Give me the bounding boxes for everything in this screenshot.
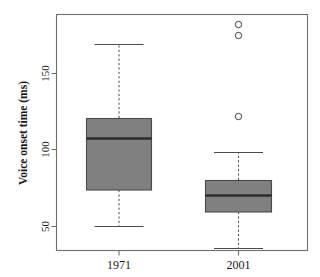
y-tick-label-150: 150 bbox=[39, 65, 51, 82]
boxplot-figure: 150 100 50 Voice onset time (ms) 1971 20… bbox=[0, 0, 320, 277]
y-tick-label-100: 100 bbox=[39, 141, 51, 158]
y-axis-title: Voice onset time (ms) bbox=[17, 81, 30, 185]
box-body-1971 bbox=[87, 119, 152, 191]
plot-background bbox=[0, 0, 320, 277]
x-tick-label-2001: 2001 bbox=[227, 258, 251, 272]
boxplot-svg: 150 100 50 Voice onset time (ms) 1971 20… bbox=[0, 0, 320, 277]
y-tick-label-50: 50 bbox=[39, 221, 51, 233]
x-tick-label-1971: 1971 bbox=[107, 258, 131, 272]
